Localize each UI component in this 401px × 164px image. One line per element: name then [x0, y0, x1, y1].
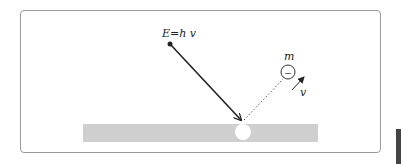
- photoelectric-diagram: − E=h v m v: [0, 0, 401, 164]
- electron-path: [244, 79, 283, 120]
- metal-plate: [83, 124, 318, 142]
- electron-mass-label: m: [284, 50, 294, 63]
- photon-arrow: [170, 44, 241, 120]
- ejection-site: [235, 124, 251, 140]
- electron-charge-symbol: −: [284, 68, 292, 78]
- edge-scrollbar: [396, 129, 401, 164]
- velocity-label: v: [300, 86, 307, 99]
- photon-energy-label: E=h v: [161, 27, 197, 40]
